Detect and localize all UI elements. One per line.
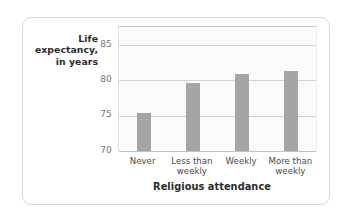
gridline-85 — [119, 45, 316, 46]
y-tick-label-85: 85 — [90, 39, 112, 49]
x-tick-line: More than — [262, 156, 318, 166]
bar-never — [137, 113, 151, 151]
axis-baseline — [119, 151, 316, 152]
y-axis-label-line-2: expectancy, — [24, 44, 98, 55]
y-axis-label-line-1: Life — [24, 33, 98, 44]
x-tick-line: weekly — [164, 166, 220, 176]
y-axis-label-line-3: in years — [24, 56, 98, 67]
figure-canvas: Life expectancy, in years 85 80 75 70 Ne… — [0, 0, 353, 220]
x-tick-line: Less than — [164, 156, 220, 166]
x-tick-label-never: Never — [115, 156, 171, 166]
bar-more-than-weekly — [284, 71, 298, 151]
bar-weekly — [235, 74, 249, 151]
bar-less-than-weekly — [186, 83, 200, 151]
y-tick-label-80: 80 — [90, 74, 112, 84]
x-tick-label-weekly: Weekly — [213, 156, 269, 166]
x-tick-line: Weekly — [213, 156, 269, 166]
y-tick-label-75: 75 — [90, 109, 112, 119]
y-tick-label-70: 70 — [90, 145, 112, 155]
plot-area — [118, 26, 317, 151]
x-tick-label-less-than-weekly: Less than weekly — [164, 156, 220, 176]
x-tick-line: weekly — [262, 166, 318, 176]
x-tick-label-more-than-weekly: More than weekly — [262, 156, 318, 176]
x-axis-label: Religious attendance — [100, 181, 324, 192]
x-tick-line: Never — [115, 156, 171, 166]
y-axis-label: Life expectancy, in years — [24, 33, 98, 67]
